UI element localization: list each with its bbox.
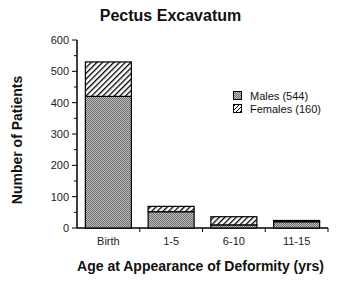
y-tick-label: 600	[51, 34, 69, 46]
y-tick-label: 500	[51, 65, 69, 77]
bars	[85, 62, 319, 228]
legend-item-females: Females (160)	[233, 102, 321, 115]
x-tick-label: Birth	[97, 235, 120, 247]
y-tick-label: 300	[51, 128, 69, 140]
bar-segment	[148, 212, 194, 228]
hatch-swatch-icon	[233, 104, 242, 113]
bar-segment	[274, 222, 320, 228]
legend-label-males: Males (544)	[250, 90, 308, 102]
legend-item-males: Males (544)	[233, 89, 321, 102]
legend-label-females: Females (160)	[250, 103, 321, 115]
bar-segment	[85, 96, 131, 228]
x-tick-label: 11-15	[283, 235, 310, 247]
y-tick-label: 200	[51, 159, 69, 171]
y-tick-label: 400	[51, 97, 69, 109]
x-tick-label: 6-10	[223, 235, 245, 247]
y-tick-label: 100	[51, 191, 69, 203]
bar-segment	[85, 62, 131, 96]
stipple-swatch-icon	[233, 91, 242, 100]
bar-chart: 0100200300400500600Birth1-56-1011-15	[0, 0, 341, 285]
y-tick-label: 0	[63, 222, 69, 234]
x-tick-label: 1-5	[163, 235, 179, 247]
bar-segment	[211, 217, 257, 225]
bar-segment	[148, 206, 194, 211]
legend: Males (544) Females (160)	[233, 89, 321, 115]
bar-segment	[274, 220, 320, 221]
